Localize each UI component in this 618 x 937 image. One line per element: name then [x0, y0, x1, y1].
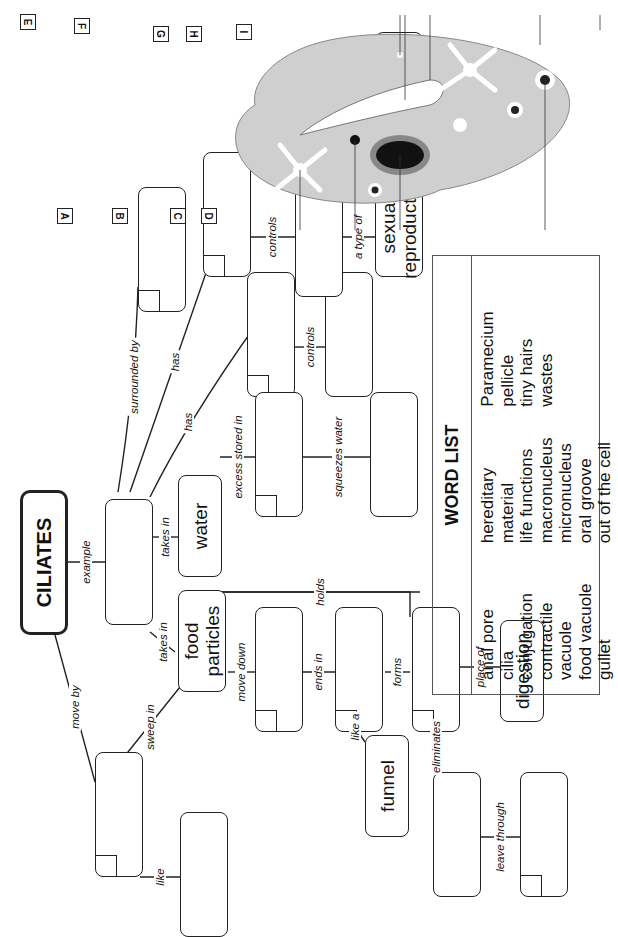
node-food-particles: food particles [178, 590, 226, 692]
link-example: example [80, 538, 92, 585]
word-item: micronucleus [556, 407, 576, 544]
link-takes-in-water: takes in [159, 515, 171, 559]
diagram-label-i: I [236, 24, 252, 40]
word-list-col-3: Paramecium pellicle tiny hairs wastes [478, 270, 615, 407]
box-corner-tab [138, 290, 160, 312]
diagram-label-d: D [201, 208, 217, 224]
answer-box-out-of-cell[interactable] [370, 392, 418, 517]
word-item: wastes [537, 270, 557, 407]
paramecium-diagram [0, 0, 610, 230]
diagram-label-b: B [112, 208, 128, 224]
link-sweep-in: sweep in [144, 702, 156, 751]
word-item: contractile vacuole [537, 543, 576, 680]
word-item: conjugation [517, 543, 537, 680]
link-move-by: move by [69, 683, 81, 730]
box-corner-tab [255, 710, 277, 732]
link-holds: holds [314, 576, 326, 608]
answer-box-cilia[interactable] [95, 752, 143, 877]
answer-box-oral-groove[interactable] [255, 607, 303, 732]
word-item: out of the cell [595, 407, 615, 544]
diagram-label-e: E [20, 14, 36, 30]
link-like: like [154, 866, 166, 887]
link-controls-1: controls [304, 325, 316, 369]
link-squeezes-water: squeezes water [332, 415, 344, 500]
word-item: cilia [498, 543, 518, 680]
node-water: water [178, 475, 222, 577]
box-corner-tab [203, 255, 225, 277]
answer-box-tiny-hairs[interactable] [180, 812, 228, 937]
answer-box-anal-pore[interactable] [520, 772, 568, 897]
diagram-label-a: A [57, 208, 73, 224]
word-item: oral groove [576, 407, 596, 544]
word-item: tiny hairs [517, 270, 537, 407]
diagram-label-c: C [170, 208, 186, 224]
link-excess-stored-in: excess stored in [232, 413, 244, 500]
word-item: gullet [595, 543, 615, 680]
link-ends-in: ends in [312, 651, 324, 692]
word-item: life functions [517, 407, 537, 544]
link-leave-through: leave through [494, 800, 506, 874]
word-item: Paramecium [478, 270, 498, 407]
paramecium-illustration [0, 0, 610, 230]
answer-box-macronucleus[interactable] [247, 272, 295, 397]
link-eliminates: eliminates [430, 719, 442, 775]
diagram-label-f: F [74, 18, 90, 34]
link-has-macronucleus: has [169, 351, 181, 374]
answer-box-paramecium[interactable] [105, 499, 153, 625]
word-item: pellicle [498, 270, 518, 407]
answer-box-contractile-vacuole[interactable] [255, 392, 303, 517]
link-like-a: like a [349, 712, 361, 743]
ciliates-label: CILIATES [33, 518, 56, 608]
ciliates-node: CILIATES [20, 490, 68, 635]
word-list-col-1: anal pore cilia conjugation contractile … [478, 543, 615, 680]
link-takes-in-food: takes in [157, 620, 169, 664]
link-has-contractile: has [182, 411, 194, 434]
word-item: food vacuole [576, 543, 596, 680]
word-item: anal pore [478, 543, 498, 680]
word-item: hereditary material [478, 407, 517, 544]
diagram-label-g: G [153, 26, 169, 42]
word-list-header: WORD LIST [433, 256, 472, 694]
answer-box-wastes[interactable] [433, 772, 481, 897]
node-funnel: funnel [365, 735, 409, 837]
link-forms: forms [391, 656, 403, 689]
box-corner-tab [520, 875, 542, 897]
box-corner-tab [95, 855, 117, 877]
word-item: macronucleus [537, 407, 557, 544]
link-move-down: move down [235, 641, 247, 704]
box-corner-tab [255, 495, 277, 517]
word-list-col-2: hereditary material life functions macro… [478, 407, 615, 544]
word-list: WORD LIST anal pore cilia conjugation co… [432, 255, 600, 695]
diagram-label-h: H [186, 26, 202, 42]
link-surrounded-by: surrounded by [128, 338, 140, 416]
